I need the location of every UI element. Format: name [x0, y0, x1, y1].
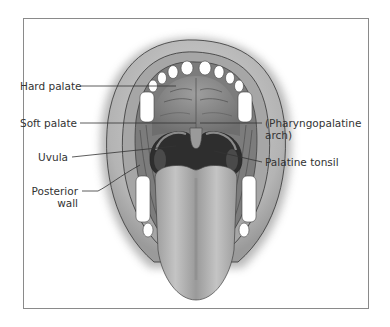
label-uvula: Uvula	[20, 151, 68, 163]
label-posterior-line1: Posterior	[20, 185, 78, 197]
tongue	[155, 166, 237, 301]
label-pharyngopalatine-arch: (Pharyngopalatine arch)	[265, 117, 361, 141]
label-soft-palate: Soft palate	[20, 117, 76, 129]
label-posterior-wall: Posterior wall	[20, 185, 78, 209]
label-pharyngopalatine-line1: (Pharyngopalatine	[265, 117, 361, 129]
label-hard-palate: Hard palate	[20, 80, 76, 92]
label-palatine-tonsil: Palatine tonsil	[265, 156, 339, 168]
label-pharyngopalatine-line2: arch)	[265, 129, 361, 141]
label-posterior-line2: wall	[20, 197, 78, 209]
